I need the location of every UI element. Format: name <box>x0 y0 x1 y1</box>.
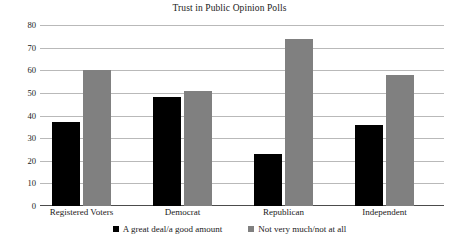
legend-swatch-icon <box>248 226 254 232</box>
x-axis-label-republican: Republican <box>263 207 304 217</box>
legend-item-series-0[interactable]: A great deal/a good amount <box>113 224 222 234</box>
y-axis-tick-label: 60 <box>2 65 36 75</box>
bar-chart: Trust in Public Opinion Polls 0102030405… <box>0 0 459 245</box>
x-axis-category-labels: Registered VotersDemocratRepublicanIndep… <box>40 207 444 223</box>
y-axis-tick-label: 40 <box>2 111 36 121</box>
y-axis-tick-label: 50 <box>2 88 36 98</box>
y-axis-tick-label: 70 <box>2 43 36 53</box>
legend-swatch-icon <box>113 226 119 232</box>
plot-area <box>40 25 444 206</box>
bar-independent-series-0 <box>355 125 383 206</box>
legend-item-series-1[interactable]: Not very much/not at all <box>248 224 346 234</box>
bar-republican-series-1 <box>285 39 313 206</box>
y-axis-tick-label: 30 <box>2 133 36 143</box>
gridline <box>40 48 444 49</box>
legend-label: Not very much/not at all <box>258 224 346 234</box>
chart-title: Trust in Public Opinion Polls <box>0 3 459 13</box>
y-axis-tick-label: 0 <box>2 201 36 211</box>
bar-registered-voters-series-1 <box>83 70 111 206</box>
bar-democrat-series-0 <box>153 97 181 206</box>
legend-label: A great deal/a good amount <box>123 224 222 234</box>
gridline <box>40 25 444 26</box>
bar-independent-series-1 <box>386 75 414 206</box>
y-axis-tick-label: 20 <box>2 156 36 166</box>
chart-legend: A great deal/a good amountNot very much/… <box>0 224 459 234</box>
y-axis: 01020304050607080 <box>0 25 36 206</box>
bar-registered-voters-series-0 <box>52 122 80 206</box>
x-axis-label-registered-voters: Registered Voters <box>50 207 113 217</box>
bar-democrat-series-1 <box>184 91 212 206</box>
x-axis-label-independent: Independent <box>362 207 406 217</box>
y-axis-tick-label: 80 <box>2 20 36 30</box>
y-axis-tick-label: 10 <box>2 178 36 188</box>
bar-republican-series-0 <box>254 154 282 206</box>
x-axis-label-democrat: Democrat <box>165 207 200 217</box>
